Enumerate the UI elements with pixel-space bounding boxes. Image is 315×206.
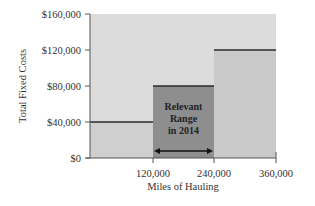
x-tick-label: 120,000 [136, 168, 170, 179]
y-axis-title: Total Fixed Costs [17, 49, 28, 123]
step-3-fill [214, 50, 276, 158]
fixed-cost-step-chart: $160,000 $120,000 $80,000 $40,000 $0 120… [0, 0, 315, 206]
y-tick-label: $120,000 [42, 45, 81, 56]
y-tick-label: $80,000 [47, 81, 81, 92]
y-tick-label: $160,000 [42, 9, 81, 20]
relevant-range-label-line-1: Relevant [165, 101, 203, 112]
step-1-fill [90, 122, 153, 158]
relevant-range-label-line-3: in 2014 [168, 125, 199, 136]
x-axis-title: Miles of Hauling [147, 181, 219, 192]
x-tick-label: 360,000 [259, 168, 293, 179]
y-tick-label: $0 [71, 153, 82, 164]
relevant-range-label-line-2: Range [170, 113, 198, 124]
x-tick-label: 240,000 [197, 168, 231, 179]
y-tick-label: $40,000 [47, 117, 81, 128]
y-ticks [85, 14, 90, 158]
